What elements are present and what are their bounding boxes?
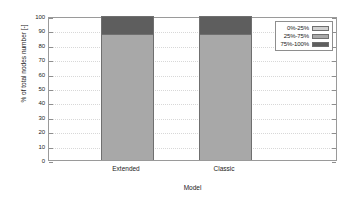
y-axis-label: % of total nodes number [-] [20, 0, 27, 134]
bar-segment [101, 34, 154, 160]
bar-stack [101, 16, 154, 160]
x-axis-label: Model [48, 184, 337, 192]
legend: 0%-25%25%-75%75%-100% [275, 21, 333, 51]
y-axis-tick-label: 10 [23, 144, 45, 150]
legend-swatch [312, 26, 329, 31]
bar-segment [199, 34, 252, 160]
bar-segment [199, 16, 252, 34]
x-axis-tick-label: Extended [81, 165, 171, 173]
plot-area: 0%-25%25%-75%75%-100% [48, 17, 337, 161]
legend-item-label: 0%-25% [287, 24, 309, 32]
legend-swatch [312, 34, 329, 39]
x-axis-tick-label: Classic [179, 165, 269, 173]
y-axis-tick-label: 0 [23, 158, 45, 164]
legend-item: 0%-25% [280, 24, 329, 32]
bar-stack [199, 16, 252, 160]
legend-item: 25%-75% [280, 32, 329, 40]
chart-figure: 0102030405060708090100 % of total nodes … [0, 0, 360, 205]
axis-tick [332, 162, 336, 163]
bar-segment [101, 16, 154, 34]
legend-item: 75%-100% [280, 40, 329, 48]
legend-swatch [312, 42, 329, 47]
legend-item-label: 75%-100% [280, 40, 309, 48]
axis-tick [49, 162, 53, 163]
legend-item-label: 25%-75% [284, 32, 309, 40]
